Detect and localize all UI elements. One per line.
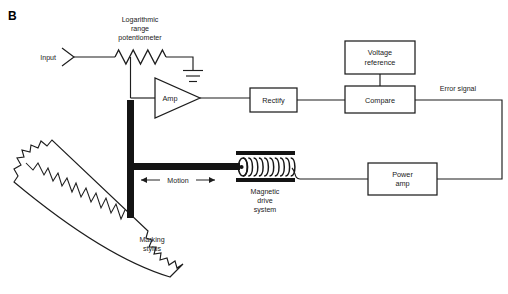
- magnet-pole-top: [236, 151, 295, 155]
- stylus-arm-horizontal: [127, 163, 240, 170]
- magnetic-drive-label-line1: Magnetic: [251, 188, 280, 196]
- magnetic-drive-label-line3: system: [254, 206, 277, 214]
- magnetic-drive-label-line2: drive: [257, 197, 272, 205]
- potentiometer-symbol: [115, 50, 166, 64]
- chart-paper: [14, 140, 183, 277]
- magnet-pole-bottom: [236, 178, 295, 182]
- stylus-arm-vertical: [127, 100, 134, 218]
- rectify-label: Rectify: [262, 96, 285, 105]
- coil-winding: [238, 158, 295, 176]
- voltage-reference-label-line1: Voltage: [368, 48, 392, 57]
- marking-stylus-label-line2: stylus: [143, 245, 162, 253]
- figure-panel-b: B Input Logarithmic range potentiometer …: [0, 0, 508, 294]
- ground-symbol: [183, 71, 203, 82]
- amp-label: Amp: [162, 94, 177, 103]
- marking-stylus-label-line1: Marking: [139, 236, 164, 244]
- power-amp-label-line2: amp: [395, 179, 409, 188]
- block-diagram: B Input Logarithmic range potentiometer …: [0, 0, 508, 294]
- power-amp-label-line1: Power: [392, 170, 413, 179]
- voltage-reference-label-line2: reference: [365, 58, 396, 67]
- compare-label: Compare: [365, 96, 395, 105]
- potentiometer-label-line3: potentiometer: [118, 34, 162, 42]
- panel-letter: B: [8, 9, 17, 23]
- input-label: Input: [40, 54, 56, 62]
- potentiometer-label-line1: Logarithmic: [122, 16, 159, 24]
- motion-label: Motion: [167, 177, 188, 185]
- wire-pot-to-ground: [166, 57, 193, 70]
- coil-core-dot: [239, 165, 243, 169]
- potentiometer-label-line2: range: [131, 25, 149, 33]
- error-signal-label: Error signal: [440, 85, 477, 93]
- input-arrowhead: [62, 48, 74, 66]
